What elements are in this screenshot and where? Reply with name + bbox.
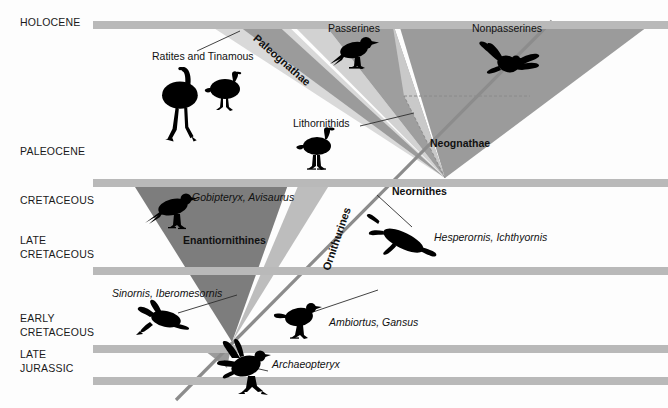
sinornis-silhouette xyxy=(136,300,189,335)
leader-ratites xyxy=(197,31,240,51)
clade-label-enantiornithines: Enantiornithines xyxy=(183,234,266,246)
timeline-bar-early-cretaceous xyxy=(93,345,668,353)
era-label-late-cretaceous: LATE CRETACEOUS xyxy=(20,234,94,261)
taxon-label-lithornithids: Lithornithids xyxy=(293,117,350,129)
era-label-cretaceous: CRETACEOUS xyxy=(20,194,94,208)
taxon-label-gobipteryx-avisaurus: Gobipteryx, Avisaurus xyxy=(192,191,294,203)
leader-hesperornis xyxy=(377,195,412,227)
taxon-label-hesperornis-ichthyornis: Hesperornis, Ichthyornis xyxy=(434,231,547,243)
diagram-canvas: HOLOCENE PALEOCENE CRETACEOUS LATE CRETA… xyxy=(0,0,668,408)
clade-label-neornithes: Neornithes xyxy=(392,185,447,197)
era-label-early-cretaceous: EARLY CRETACEOUS xyxy=(20,312,94,339)
timeline-bar-late-jurassic xyxy=(93,377,668,385)
timeline-bar-paleocene-base xyxy=(93,179,668,187)
hesperornis-silhouette xyxy=(355,213,440,275)
ambiortus-silhouette xyxy=(274,303,322,339)
tinamou-silhouette xyxy=(205,71,241,111)
taxon-label-ambiortus-gansus: Ambiortus, Gansus xyxy=(329,316,418,328)
lithornithid-silhouette xyxy=(296,127,334,170)
taxon-label-ratites-tinamous: Ratites and Tinamous xyxy=(152,50,254,62)
ostrich-silhouette xyxy=(162,67,198,141)
era-label-late-jurassic: LATE JURASSIC xyxy=(20,348,74,375)
timeline-bar-late-cretaceous xyxy=(93,267,668,275)
era-label-paleocene: PALEOCENE xyxy=(20,145,85,159)
timeline-bar-holocene xyxy=(93,21,668,29)
leader-ambiortus xyxy=(310,290,378,313)
taxon-label-archaeopteryx: Archaeopteryx xyxy=(272,358,340,370)
era-label-holocene: HOLOCENE xyxy=(20,16,81,30)
taxon-label-nonpasserines: Nonpasserines xyxy=(472,22,542,34)
phylogeny-svg xyxy=(0,0,668,408)
taxon-label-sinornis-iberomesornis: Sinornis, Iberomesornis xyxy=(112,287,222,299)
taxon-label-passerines: Passerines xyxy=(328,22,380,34)
clade-label-neognathae: Neognathae xyxy=(430,137,490,149)
